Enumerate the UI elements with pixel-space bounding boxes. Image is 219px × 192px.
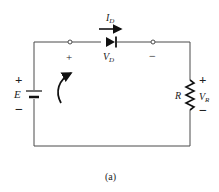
resistor-minus-sign: −: [199, 103, 207, 118]
figure-caption: (a): [105, 171, 116, 183]
source-plus-sign: +: [15, 72, 22, 87]
resistor-label: R: [174, 90, 181, 101]
source-minus-sign: −: [15, 102, 23, 117]
circuit-diagram: ID VD + − + E − R + VR − (a): [0, 0, 219, 192]
diode-current-label: ID: [105, 12, 114, 25]
diode-minus-sign: −: [149, 49, 156, 63]
terminal-right: [151, 40, 155, 44]
terminal-left: [68, 40, 72, 44]
diode-voltage-label: VD: [103, 51, 114, 64]
source-label: E: [13, 88, 21, 100]
resistor-plus-sign: +: [199, 72, 206, 87]
resistor-icon: [186, 80, 194, 110]
curved-arrow-icon: [58, 73, 71, 103]
diode-plus-sign: +: [66, 51, 72, 63]
battery-icon: [26, 91, 42, 97]
diode-icon: [106, 37, 116, 48]
